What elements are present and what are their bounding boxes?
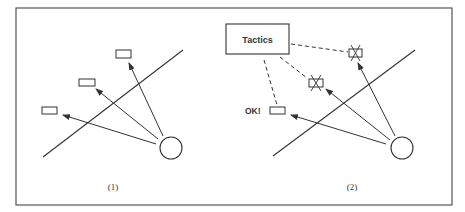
tactics-label: Tactics (242, 35, 272, 45)
ok-label: OK! (245, 106, 261, 116)
dashed-link-middle (280, 57, 307, 78)
crossed-target-middle (309, 75, 323, 91)
panel-caption: (2) (347, 182, 358, 192)
ok-target-box (270, 107, 285, 114)
target-box-top (116, 50, 131, 58)
arrow-to-ok-target (291, 115, 386, 144)
agent-circle (160, 137, 182, 159)
arrow-to-left-target (63, 115, 156, 144)
agent-circle (391, 137, 413, 159)
arrow-to-crossed-top (358, 63, 395, 136)
diagram-canvas: (1) Tactics OK! (2) (0, 0, 465, 212)
dashed-link-top (291, 44, 348, 52)
arrow-to-crossed-middle (326, 89, 390, 140)
target-box-middle (79, 79, 95, 86)
arrow-to-top-target (129, 63, 163, 136)
panel-2: Tactics OK! (2) (226, 24, 415, 192)
target-box-left (42, 107, 57, 114)
dashed-link-ok (264, 60, 277, 105)
crossed-target-top (349, 45, 362, 61)
panel-caption: (1) (108, 182, 119, 192)
arrow-to-middle-target (96, 89, 158, 139)
panel-1: (1) (42, 50, 183, 192)
